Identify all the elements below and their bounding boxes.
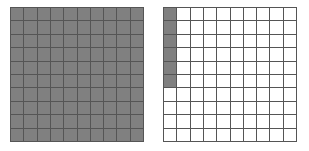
grid-cell-shaded <box>11 75 24 88</box>
grid-cell-shaded <box>117 8 130 21</box>
grid-cell-shaded <box>64 62 77 75</box>
grid-cell-shaded <box>91 75 104 88</box>
grid-cell-unshaded <box>231 88 244 101</box>
grid-cell-shaded <box>64 115 77 128</box>
grid-cell-unshaded <box>191 21 204 34</box>
grid-cell-shaded <box>131 62 144 75</box>
grid-cell-unshaded <box>217 102 230 115</box>
grid-cell-unshaded <box>257 129 270 142</box>
grid-cell-unshaded <box>217 21 230 34</box>
grid-cell-unshaded <box>284 129 297 142</box>
grid-cell-shaded <box>91 115 104 128</box>
grid-cell-unshaded <box>164 88 177 101</box>
grid-cell-shaded <box>51 35 64 48</box>
grid-cell-unshaded <box>204 115 217 128</box>
grid-cell-unshaded <box>204 62 217 75</box>
grid-cell-unshaded <box>244 21 257 34</box>
hundredths-grid-left <box>10 7 144 142</box>
grid-cell-shaded <box>104 115 117 128</box>
grid-cell-shaded <box>38 8 51 21</box>
grid-cell-shaded <box>24 88 37 101</box>
grid-cell-unshaded <box>244 62 257 75</box>
grid-cell-shaded <box>64 75 77 88</box>
grid-cell-shaded <box>51 129 64 142</box>
grid-cell-shaded <box>51 48 64 61</box>
grid-cell-unshaded <box>191 75 204 88</box>
grid-cell-shaded <box>78 88 91 101</box>
grid-cell-unshaded <box>191 8 204 21</box>
grid-cell-shaded <box>131 129 144 142</box>
grid-cell-shaded <box>78 129 91 142</box>
grid-cell-shaded <box>117 115 130 128</box>
grid-cell-unshaded <box>217 48 230 61</box>
grid-cell-shaded <box>24 102 37 115</box>
grid-cell-unshaded <box>191 48 204 61</box>
grid-cell-shaded <box>91 21 104 34</box>
grid-cell-unshaded <box>231 8 244 21</box>
grid-cell-unshaded <box>217 115 230 128</box>
grid-cell-unshaded <box>231 62 244 75</box>
grid-cell-unshaded <box>257 88 270 101</box>
grid-cell-shaded <box>91 35 104 48</box>
grid-cell-shaded <box>131 88 144 101</box>
grid-cell-shaded <box>11 102 24 115</box>
grid-cell-unshaded <box>217 75 230 88</box>
grid-cell-unshaded <box>257 75 270 88</box>
grid-cell-shaded <box>64 48 77 61</box>
grid-cell-unshaded <box>270 62 283 75</box>
grid-cell-unshaded <box>177 102 190 115</box>
grid-cell-shaded <box>24 8 37 21</box>
grid-cell-unshaded <box>191 62 204 75</box>
grid-cell-unshaded <box>177 8 190 21</box>
grid-cell-unshaded <box>204 48 217 61</box>
grid-cell-unshaded <box>244 8 257 21</box>
grid-cell-shaded <box>24 129 37 142</box>
grid-cell-shaded <box>117 62 130 75</box>
grid-cell-unshaded <box>177 75 190 88</box>
grid-cell-shaded <box>78 35 91 48</box>
grid-cell-shaded <box>164 75 177 88</box>
grid-cell-shaded <box>164 21 177 34</box>
grid-cell-shaded <box>78 102 91 115</box>
grid-cell-shaded <box>51 21 64 34</box>
grid-cell-unshaded <box>231 115 244 128</box>
grid-cell-unshaded <box>204 35 217 48</box>
grid-cell-unshaded <box>164 102 177 115</box>
grid-cell-shaded <box>51 115 64 128</box>
grid-cell-shaded <box>64 88 77 101</box>
grid-cell-shaded <box>117 75 130 88</box>
grid-cell-unshaded <box>204 102 217 115</box>
grid-cell-shaded <box>91 8 104 21</box>
grid-cell-shaded <box>117 88 130 101</box>
grid-cell-unshaded <box>244 129 257 142</box>
grid-cell-shaded <box>91 102 104 115</box>
grid-cell-shaded <box>78 8 91 21</box>
grid-cell-unshaded <box>244 35 257 48</box>
grid-cell-shaded <box>131 102 144 115</box>
grid-cell-shaded <box>11 129 24 142</box>
grid-cell-shaded <box>24 21 37 34</box>
grid-cell-unshaded <box>177 35 190 48</box>
grid-cell-shaded <box>164 8 177 21</box>
grid-cell-unshaded <box>284 102 297 115</box>
grid-cell-unshaded <box>257 48 270 61</box>
grid-cell-shaded <box>51 88 64 101</box>
grid-cell-unshaded <box>164 115 177 128</box>
grid-cell-shaded <box>38 115 51 128</box>
grid-cell-unshaded <box>257 8 270 21</box>
grid-cell-unshaded <box>204 75 217 88</box>
grid-cell-shaded <box>117 102 130 115</box>
grid-cell-shaded <box>104 62 117 75</box>
grid-cell-unshaded <box>204 21 217 34</box>
grid-cell-shaded <box>91 88 104 101</box>
grid-cell-shaded <box>117 129 130 142</box>
grid-cell-unshaded <box>284 21 297 34</box>
grid-cell-shaded <box>24 115 37 128</box>
grid-cell-unshaded <box>217 88 230 101</box>
grid-cell-shaded <box>64 35 77 48</box>
hundredths-grids-figure <box>0 0 309 151</box>
grid-cell-shaded <box>11 8 24 21</box>
grid-cell-unshaded <box>204 129 217 142</box>
grid-cell-shaded <box>78 115 91 128</box>
grid-cell-shaded <box>104 48 117 61</box>
